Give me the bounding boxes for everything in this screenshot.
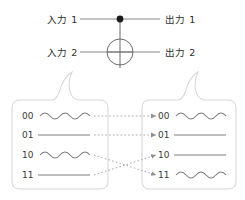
state-mapping-svg [0, 0, 245, 200]
diagram-canvas: 入力 1 出力 1 入力 2 出力 2 [0, 0, 245, 200]
output-states-box [142, 72, 236, 189]
input-states-box [12, 72, 108, 189]
